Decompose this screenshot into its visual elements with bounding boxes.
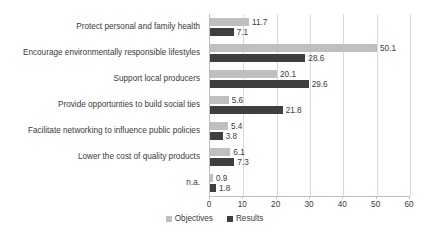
bar-track: 20.1 bbox=[210, 70, 410, 78]
bar-track: 3.8 bbox=[210, 132, 410, 140]
bar-group: 20.129.6 bbox=[210, 66, 410, 92]
bar-track: 50.1 bbox=[210, 44, 410, 52]
tick-label: 30 bbox=[304, 200, 313, 209]
tick-mark bbox=[242, 196, 243, 199]
bar-objectives[interactable] bbox=[210, 70, 277, 78]
bar-value-label: 7.3 bbox=[234, 157, 248, 166]
bar-objectives[interactable] bbox=[210, 122, 228, 130]
tick-label: 40 bbox=[338, 200, 347, 209]
category-axis: Protect personal and family health Encou… bbox=[0, 14, 205, 196]
bar-track: 5.4 bbox=[210, 122, 410, 130]
bar-objectives[interactable] bbox=[210, 148, 230, 156]
bar-value-label: 5.6 bbox=[229, 96, 243, 105]
tick-mark bbox=[209, 196, 210, 199]
bar-group: 5.621.8 bbox=[210, 92, 410, 118]
bar-objectives[interactable] bbox=[210, 96, 229, 104]
chart-legend: ObjectivesResults bbox=[0, 214, 429, 223]
tick-label: 10 bbox=[238, 200, 247, 209]
legend-item[interactable]: Objectives bbox=[166, 214, 213, 223]
plot-area: 11.77.150.128.620.129.65.621.85.43.86.17… bbox=[209, 14, 410, 196]
bar-results[interactable] bbox=[210, 132, 223, 140]
bar-value-label: 1.8 bbox=[216, 183, 230, 192]
value-axis: 0102030405060 bbox=[209, 196, 409, 212]
bar-value-label: 21.8 bbox=[283, 105, 302, 114]
bar-track: 21.8 bbox=[210, 106, 410, 114]
tick-mark bbox=[309, 196, 310, 199]
tick-label: 0 bbox=[207, 200, 212, 209]
bar-value-label: 0.9 bbox=[213, 174, 227, 183]
bar-value-label: 3.8 bbox=[223, 131, 237, 140]
bar-value-label: 50.1 bbox=[377, 44, 396, 53]
bar-value-label: 7.1 bbox=[234, 27, 248, 36]
category-label: Provide opportunties to build social tie… bbox=[0, 92, 205, 118]
bar-value-label: 20.1 bbox=[277, 70, 296, 79]
bar-value-label: 29.6 bbox=[309, 79, 328, 88]
tick-label: 60 bbox=[404, 200, 413, 209]
tick-label: 50 bbox=[371, 200, 380, 209]
bar-group: 11.77.1 bbox=[210, 14, 410, 40]
bar-track: 0.9 bbox=[210, 174, 410, 182]
bar-track: 5.6 bbox=[210, 96, 410, 104]
bar-track: 7.1 bbox=[210, 28, 410, 36]
bar-track: 6.1 bbox=[210, 148, 410, 156]
tick-label: 20 bbox=[271, 200, 280, 209]
bar-results[interactable] bbox=[210, 54, 305, 62]
bar-rows: 11.77.150.128.620.129.65.621.85.43.86.17… bbox=[210, 14, 410, 196]
category-label: Encourage environmentally responsible li… bbox=[0, 40, 205, 66]
bar-group: 6.17.3 bbox=[210, 144, 410, 170]
category-label: Lower the cost of quality products bbox=[0, 144, 205, 170]
bar-results[interactable] bbox=[210, 158, 234, 166]
legend-swatch-icon bbox=[227, 216, 233, 222]
bar-objectives[interactable] bbox=[210, 44, 377, 52]
bar-results[interactable] bbox=[210, 106, 283, 114]
bar-value-label: 28.6 bbox=[305, 53, 324, 62]
bar-track: 11.7 bbox=[210, 18, 410, 26]
bar-group: 5.43.8 bbox=[210, 118, 410, 144]
bar-results[interactable] bbox=[210, 80, 309, 88]
bar-results[interactable] bbox=[210, 28, 234, 36]
bar-group: 50.128.6 bbox=[210, 40, 410, 66]
bar-track: 29.6 bbox=[210, 80, 410, 88]
bar-track: 7.3 bbox=[210, 158, 410, 166]
tick-mark bbox=[376, 196, 377, 199]
category-label: Support local producers bbox=[0, 66, 205, 92]
gridline bbox=[410, 14, 411, 196]
category-label: n.a. bbox=[0, 170, 205, 196]
bar-value-label: 5.4 bbox=[228, 122, 242, 131]
bar-objectives[interactable] bbox=[210, 18, 249, 26]
bar-value-label: 11.7 bbox=[249, 18, 267, 27]
legend-item[interactable]: Results bbox=[227, 214, 263, 223]
legend-label: Objectives bbox=[175, 214, 213, 223]
bar-value-label: 6.1 bbox=[230, 148, 244, 157]
category-label: Facilitate networking to influence publi… bbox=[0, 118, 205, 144]
tick-mark bbox=[276, 196, 277, 199]
bar-group: 0.91.8 bbox=[210, 170, 410, 196]
bar-chart: Protect personal and family health Encou… bbox=[0, 0, 429, 236]
bar-track: 1.8 bbox=[210, 184, 410, 192]
tick-mark bbox=[342, 196, 343, 199]
bar-track: 28.6 bbox=[210, 54, 410, 62]
tick-mark bbox=[409, 196, 410, 199]
category-label: Protect personal and family health bbox=[0, 14, 205, 40]
legend-label: Results bbox=[236, 214, 263, 223]
legend-swatch-icon bbox=[166, 216, 172, 222]
